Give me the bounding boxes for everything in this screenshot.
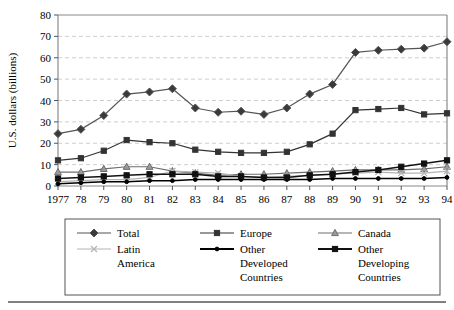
x-tick-label-84: 84 [213, 193, 225, 205]
y-tick-label-80: 80 [40, 9, 52, 21]
point-Europe-84 [216, 149, 221, 154]
point-Europe-91 [376, 106, 381, 111]
point-Other Developing Countries-85 [238, 174, 243, 179]
x-tick-label-79: 79 [98, 193, 110, 205]
point-Other Developing Countries-88 [307, 173, 312, 178]
x-tick-label-92: 92 [396, 193, 407, 205]
series-total [54, 38, 451, 138]
y-tick-labels: 01020304050607080 [40, 9, 58, 192]
legend-label-Other Developing Countries-line1: Developing [358, 257, 410, 269]
legend-marker-Europe [214, 230, 219, 235]
legend-label-Other Developed Countries-line2: Countries [240, 271, 283, 283]
point-Other Developed Countries-1977 [56, 182, 60, 186]
series-europe [55, 105, 449, 163]
legend-marker-Other Developing Countries [332, 246, 337, 251]
legend-label-Other Developed Countries-line0: Other [240, 243, 265, 255]
point-Europe-81 [147, 140, 152, 145]
point-Other Developed Countries-80 [125, 180, 129, 184]
point-Europe-87 [284, 149, 289, 154]
point-Europe-94 [444, 111, 449, 116]
point-Other Developed Countries-83 [193, 178, 197, 182]
point-Other Developing Countries-91 [376, 167, 381, 172]
x-tick-label-94: 94 [442, 193, 454, 205]
x-tick-label-91: 91 [373, 193, 384, 205]
series-line-Other Developed Countries [58, 177, 447, 183]
point-Total-85 [237, 107, 245, 115]
y-tick-label-30: 30 [40, 116, 52, 128]
point-Other Developing Countries-90 [353, 170, 358, 175]
legend-entry-total[interactable]: Total [77, 227, 139, 239]
legend-entry-latin-america[interactable]: LatinAmerica [77, 243, 155, 269]
point-Europe-82 [170, 141, 175, 146]
point-Other Developed Countries-78 [79, 181, 83, 185]
point-Other Developed Countries-92 [399, 177, 403, 181]
legend-label-Other Developing Countries-line0: Other [358, 243, 383, 255]
x-tick-label-85: 85 [236, 193, 248, 205]
point-Total-90 [351, 48, 359, 56]
y-tick-label-50: 50 [40, 73, 52, 85]
point-Other Developing Countries-81 [147, 172, 152, 177]
point-Other Developing Countries-1977 [55, 176, 60, 181]
point-Total-87 [283, 104, 291, 112]
x-tick-label-78: 78 [75, 193, 87, 205]
point-Total-92 [397, 45, 405, 53]
point-Total-84 [214, 108, 222, 116]
point-Europe-90 [353, 108, 358, 113]
point-Other Developed Countries-91 [376, 177, 380, 181]
y-tick-label-60: 60 [40, 52, 52, 64]
point-Other Developing Countries-82 [170, 172, 175, 177]
point-Other Developing Countries-86 [261, 175, 266, 180]
x-tick-label-81: 81 [144, 193, 155, 205]
point-Total-91 [374, 46, 382, 54]
point-Other Developed Countries-79 [102, 180, 106, 184]
y-axis-title: U.S. dollars (billions) [6, 53, 19, 149]
point-Total-89 [329, 80, 337, 88]
point-Europe-83 [193, 147, 198, 152]
x-tick-labels: 19777879808182838485868788899091929394 [47, 186, 453, 205]
x-tick-label-88: 88 [304, 193, 316, 205]
point-Total-81 [146, 88, 154, 96]
point-Other Developing Countries-93 [422, 161, 427, 166]
y-tick-label-40: 40 [40, 95, 52, 107]
point-Other Developed Countries-82 [171, 179, 175, 183]
legend-label-Latin America-line0: Latin [117, 243, 141, 255]
x-tick-label-82: 82 [167, 193, 178, 205]
x-tick-label-80: 80 [121, 193, 133, 205]
x-tick-label-1977: 1977 [47, 193, 70, 205]
x-tick-label-83: 83 [190, 193, 202, 205]
point-Total-1977 [54, 130, 62, 138]
legend-label-Other Developed Countries-line1: Developed [240, 257, 288, 269]
y-tick-label-0: 0 [46, 180, 52, 192]
point-Other Developing Countries-80 [124, 173, 129, 178]
point-Other Developing Countries-87 [284, 175, 289, 180]
point-Other Developed Countries-94 [445, 176, 449, 180]
point-Other Developed Countries-90 [354, 177, 358, 181]
point-Other Developing Countries-94 [444, 158, 449, 163]
y-tick-label-20: 20 [40, 137, 52, 149]
point-Other Developing Countries-83 [193, 172, 198, 177]
legend-marker-Total [90, 229, 98, 237]
legend-label-Canada-line0: Canada [358, 227, 391, 239]
point-Other Developing Countries-79 [101, 174, 106, 179]
legend-label-Europe-line0: Europe [240, 227, 272, 239]
legend-label-Other Developing Countries-line2: Countries [358, 271, 401, 283]
point-Europe-78 [78, 156, 83, 161]
x-tick-label-93: 93 [419, 193, 431, 205]
point-Europe-1977 [55, 158, 60, 163]
x-tick-label-86: 86 [258, 193, 270, 205]
legend-entry-canada[interactable]: Canada [318, 227, 391, 239]
point-Europe-85 [238, 150, 243, 155]
x-tick-label-90: 90 [350, 193, 362, 205]
point-Total-93 [420, 44, 428, 52]
y-gridlines [58, 15, 447, 165]
series-line-Total [58, 42, 447, 134]
point-Europe-79 [101, 148, 106, 153]
legend-entry-other-developing-countries[interactable]: OtherDevelopingCountries [318, 243, 410, 283]
point-Other Developing Countries-89 [330, 172, 335, 177]
y-tick-label-10: 10 [40, 159, 52, 171]
legend-entry-other-developed-countries[interactable]: OtherDevelopedCountries [200, 243, 288, 283]
point-Other Developing Countries-78 [78, 175, 83, 180]
point-Europe-80 [124, 137, 129, 142]
series-line-Europe [58, 108, 447, 160]
legend-entry-europe[interactable]: Europe [200, 227, 272, 239]
